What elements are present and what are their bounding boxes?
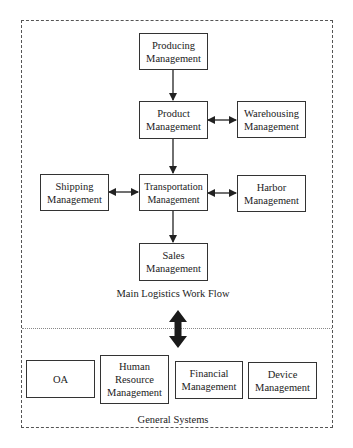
node-shipping-management: Shipping Management [40, 174, 109, 211]
node-warehousing-management: Warehousing Management [237, 101, 306, 138]
node-human-resource-management: Human Resource Management [100, 355, 169, 404]
node-product-management: Product Management [139, 101, 208, 139]
node-harbor-management: Harbor Management [237, 175, 306, 212]
node-sales-management: Sales Management [139, 243, 208, 281]
node-device-management: Device Management [248, 362, 317, 399]
node-oa: OA [26, 360, 95, 398]
node-financial-management: Financial Management [175, 361, 243, 399]
general-section-label: General Systems [118, 414, 228, 425]
node-transportation-management: Transportation Management [139, 174, 208, 211]
node-producing-management: Producing Management [139, 33, 208, 70]
section-link-double-arrow [169, 310, 187, 348]
main-section-label: Main Logistics Work Flow [113, 288, 233, 299]
